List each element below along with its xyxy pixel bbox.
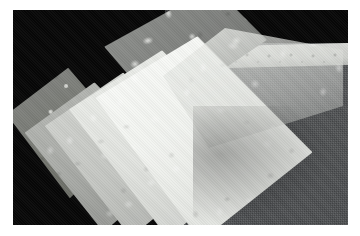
cast-shadow — [193, 106, 333, 225]
image-canvas — [0, 0, 360, 236]
photograph — [13, 10, 348, 225]
